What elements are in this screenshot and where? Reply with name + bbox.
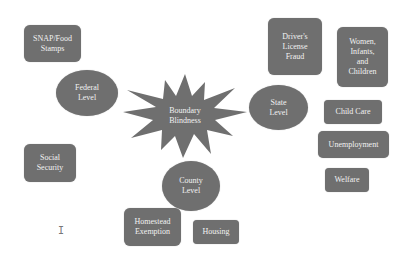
node-label: Homestead Exemption	[133, 217, 173, 237]
node-label: Driver's License Fraud	[280, 32, 309, 62]
node-label: Unemployment	[327, 140, 381, 150]
node-label: SNAP/Food Stamps	[31, 34, 74, 54]
node-label: Women, Infants, and Children	[347, 37, 379, 77]
node-boundary-blindness[interactable]: Boundary Blindness	[123, 74, 247, 158]
text-cursor-icon: I	[58, 225, 65, 237]
node-state-level[interactable]: State Level	[249, 85, 308, 130]
node-women-infants-children[interactable]: Women, Infants, and Children	[337, 27, 388, 87]
node-welfare[interactable]: Welfare	[325, 168, 369, 192]
node-unemployment[interactable]: Unemployment	[318, 131, 389, 158]
node-label: State Level	[267, 98, 289, 118]
node-child-care[interactable]: Child Care	[324, 100, 382, 124]
node-label: Boundary Blindness	[123, 74, 247, 158]
node-label: Welfare	[332, 175, 361, 185]
node-drivers-license-fraud[interactable]: Driver's License Fraud	[268, 18, 322, 75]
node-social-security[interactable]: Social Security	[24, 144, 76, 182]
node-snap-food-stamps[interactable]: SNAP/Food Stamps	[24, 25, 81, 62]
node-label: County Level	[177, 176, 205, 196]
node-label: Social Security	[35, 153, 66, 173]
diagram-canvas: SNAP/Food Stamps Federal Level Boundary …	[0, 0, 408, 258]
node-label: Child Care	[334, 107, 373, 117]
node-county-level[interactable]: County Level	[162, 161, 220, 211]
node-label: Federal Level	[73, 83, 101, 103]
node-homestead-exemption[interactable]: Homestead Exemption	[124, 208, 181, 246]
node-label: Housing	[200, 227, 231, 237]
node-federal-level[interactable]: Federal Level	[56, 70, 118, 116]
node-housing[interactable]: Housing	[193, 220, 239, 244]
